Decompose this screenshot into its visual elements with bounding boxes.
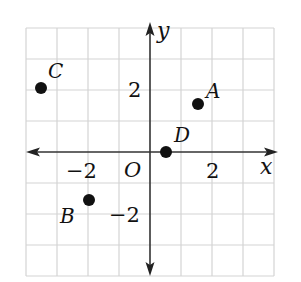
y-tick-label-neg2: −2 [109,203,140,227]
point-B: B [59,194,95,228]
point-C: C [35,59,63,94]
y-axis [146,22,155,276]
point-marker [192,98,204,110]
point-label: A [204,79,220,103]
origin-label: O [124,158,141,182]
point-label: C [48,59,63,83]
x-axis-label: x [260,154,273,179]
coordinate-plane: x y O −2 2 2 −2 A B C D [0,0,301,282]
x-axis [26,148,278,157]
point-marker [35,82,47,94]
x-tick-label-2: 2 [206,159,219,183]
y-axis-label: y [156,18,170,43]
point-marker [83,194,95,206]
point-A: A [192,79,220,110]
point-label: D [173,123,190,147]
y-tick-label-2: 2 [128,78,141,102]
point-label: B [59,204,75,228]
point-marker [160,146,172,158]
x-tick-label-neg2: −2 [66,159,97,183]
